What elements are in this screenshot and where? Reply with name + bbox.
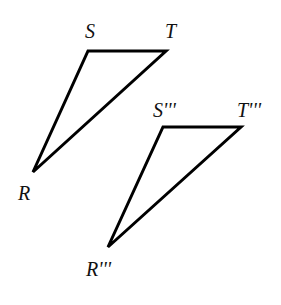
label-r: R xyxy=(17,182,30,204)
label-s: S xyxy=(85,20,95,42)
label-t-triple-prime: T''' xyxy=(237,99,262,121)
diagram-canvas: S T R S''' T''' R''' xyxy=(0,0,281,305)
triangle-rst-image: S''' T''' R''' xyxy=(85,99,262,280)
label-s-triple-prime: S''' xyxy=(153,99,177,121)
triangle-rst-shape xyxy=(33,51,166,172)
label-r-triple-prime: R''' xyxy=(85,258,112,280)
label-t: T xyxy=(165,20,178,42)
triangle-rst-image-shape xyxy=(108,127,241,247)
